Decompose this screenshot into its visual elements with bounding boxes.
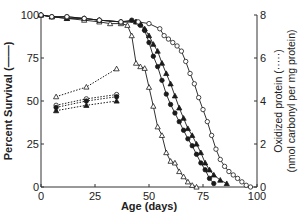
circle-open-marker (227, 169, 231, 173)
x-tick-label: 75 (197, 190, 209, 202)
oxidized-line (56, 69, 116, 97)
circle-filled-marker (147, 40, 151, 44)
circle-open-marker (175, 44, 179, 48)
circle-open-marker (222, 164, 226, 168)
circle-filled-marker (168, 102, 172, 106)
triangle-filled-marker (164, 71, 169, 76)
left-y-tick-label: 25 (27, 138, 39, 150)
triangle-filled-marker (190, 133, 195, 138)
circle-open-marker (214, 147, 218, 151)
survival-line (41, 15, 214, 184)
triangle-filled-marker (198, 150, 203, 155)
oxidized-open-triangle-series (54, 66, 120, 99)
circle-open-marker (240, 180, 244, 184)
right-y-axis-ticks: 02468 (254, 9, 266, 193)
circle-open-marker (166, 37, 170, 41)
triangle-open-marker (168, 159, 173, 164)
circle-open-marker (218, 157, 222, 161)
triangle-open-marker (164, 150, 169, 155)
circle-open-marker (179, 49, 183, 53)
survival-series (38, 12, 252, 189)
triangle-filled-marker (185, 126, 190, 131)
oxidized-protein-series (54, 66, 120, 113)
circle-filled-marker (199, 161, 203, 165)
right-y-tick-label: 2 (260, 138, 266, 150)
survival-oxidation-chart: 0255075100 0255075100 02468 Age (days) P… (0, 0, 300, 224)
right-y-tick-label: 8 (260, 9, 266, 21)
triangle-filled-marker (194, 141, 199, 146)
left-y-tick-label: 75 (27, 52, 39, 64)
triangle-filled-marker (114, 98, 119, 103)
triangle-filled-marker (159, 61, 164, 66)
survival-filled-circle-series (39, 13, 216, 186)
triangle-filled-marker (155, 49, 160, 54)
left-y-tick-label: 50 (27, 95, 39, 107)
triangle-open-marker (155, 124, 160, 129)
circle-filled-marker (212, 181, 216, 185)
survival-open-circle-series (39, 13, 253, 189)
circle-filled-marker (164, 92, 168, 96)
triangle-open-marker (129, 33, 134, 38)
left-y-tick-label: 0 (33, 181, 39, 193)
triangle-filled-marker (172, 93, 177, 98)
circle-open-marker (119, 20, 123, 24)
right-y-axis-subtitle: (nmol carbonyl per mg protein) (285, 30, 297, 173)
circle-open-marker (162, 33, 166, 37)
circle-open-marker (82, 16, 86, 20)
circle-open-marker (97, 18, 101, 22)
right-y-axis-title: Oxidized protein (·····) (272, 49, 284, 152)
triangle-open-marker (159, 133, 164, 138)
circle-open-marker (209, 133, 213, 137)
right-y-tick-label: 6 (260, 52, 266, 64)
triangle-filled-marker (84, 103, 89, 108)
left-y-axis-title: Percent Survival (——) (2, 41, 14, 160)
triangle-open-marker (177, 169, 182, 174)
right-y-tick-label: 4 (260, 95, 266, 107)
circle-open-marker (248, 185, 252, 189)
circle-open-marker (205, 119, 209, 123)
triangle-open-marker (84, 84, 89, 89)
circle-open-marker (188, 71, 192, 75)
circle-open-marker (39, 13, 43, 17)
triangle-open-marker (114, 66, 119, 71)
right-y-tick-label: 0 (260, 181, 266, 193)
left-y-axis-ticks: 0255075100 (21, 9, 44, 193)
circle-open-marker (244, 183, 248, 187)
circle-open-marker (136, 20, 140, 24)
left-y-tick-label: 100 (21, 9, 39, 21)
circle-open-marker (50, 15, 54, 19)
x-axis-title: Age (days) (121, 200, 178, 212)
triangle-filled-marker (181, 116, 186, 121)
survival-open-triangle-series (38, 12, 199, 189)
triangle-filled-marker (146, 33, 151, 38)
circle-filled-marker (160, 78, 164, 82)
x-tick-label: 25 (89, 190, 101, 202)
circle-open-marker (235, 176, 239, 180)
circle-open-marker (171, 40, 175, 44)
circle-open-marker (158, 27, 162, 31)
circle-open-marker (184, 59, 188, 63)
triangle-filled-marker (177, 105, 182, 110)
circle-open-marker (65, 15, 69, 19)
triangle-open-marker (146, 85, 151, 90)
circle-open-marker (147, 21, 151, 25)
circle-open-marker (231, 173, 235, 177)
triangle-open-marker (133, 61, 138, 66)
circle-open-marker (201, 107, 205, 111)
circle-filled-marker (151, 54, 155, 58)
circle-open-marker (192, 82, 196, 86)
circle-filled-marker (203, 168, 207, 172)
circle-open-marker (196, 95, 200, 99)
triangle-filled-marker (168, 81, 173, 86)
triangle-open-marker (54, 94, 59, 99)
circle-filled-marker (173, 111, 177, 115)
triangle-filled-marker (224, 181, 229, 186)
triangle-open-marker (151, 104, 156, 109)
